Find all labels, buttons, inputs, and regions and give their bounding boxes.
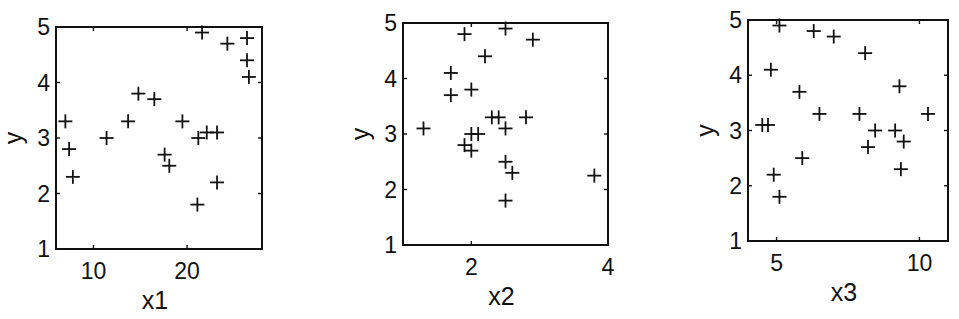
x-axis-label: x3 — [831, 278, 857, 306]
x-tick-labels: 24 — [465, 254, 615, 280]
plus-marker — [417, 121, 431, 135]
plus-marker — [240, 31, 254, 45]
plus-marker — [519, 110, 533, 124]
axes-frame — [748, 20, 948, 241]
x-tick-label: 2 — [465, 254, 478, 280]
x-tick-label: 4 — [602, 254, 615, 280]
plus-marker — [471, 127, 485, 141]
scatter-figure: 12345 1020 x1 y 12345 24 x2 y 12345 510 … — [0, 0, 959, 319]
plus-marker — [240, 53, 254, 67]
plus-marker — [587, 169, 601, 183]
y-tick-label: 4 — [729, 62, 742, 88]
y-tick-labels: 12345 — [729, 7, 742, 254]
scatter-points — [58, 26, 256, 212]
plus-marker — [505, 166, 519, 180]
plus-marker — [792, 85, 806, 99]
y-tick-labels: 12345 — [37, 14, 50, 262]
plus-marker — [499, 155, 513, 169]
panel-x2: 12345 24 x2 y — [346, 10, 615, 310]
plus-marker — [764, 63, 778, 77]
y-tick-label: 5 — [729, 7, 742, 33]
plus-marker — [242, 70, 256, 84]
x-tick-label: 5 — [770, 250, 783, 276]
plus-marker — [210, 175, 224, 189]
plus-marker — [499, 121, 513, 135]
y-tick-label: 1 — [37, 236, 50, 262]
axes-frame — [56, 27, 262, 249]
x-tick-label: 20 — [174, 258, 200, 284]
plus-marker — [444, 88, 458, 102]
plus-marker — [894, 162, 908, 176]
plus-marker — [131, 87, 145, 101]
x-tick-labels: 1020 — [81, 258, 200, 284]
axis-ticks — [748, 20, 948, 241]
panel-x1: 12345 1020 x1 y — [0, 14, 262, 314]
plus-marker — [492, 110, 506, 124]
plus-marker — [892, 79, 906, 93]
plus-marker — [62, 142, 76, 156]
plus-marker — [767, 168, 781, 182]
plus-marker — [147, 92, 161, 106]
y-tick-label: 3 — [37, 125, 50, 151]
x-tick-label: 10 — [907, 250, 933, 276]
y-tick-labels: 12345 — [384, 10, 397, 258]
plus-marker — [210, 125, 224, 139]
y-tick-label: 4 — [384, 66, 397, 92]
plus-marker — [827, 30, 841, 44]
plus-marker — [852, 107, 866, 121]
y-tick-label: 2 — [729, 173, 742, 199]
plus-marker — [812, 107, 826, 121]
y-tick-label: 2 — [37, 181, 50, 207]
plus-marker — [478, 49, 492, 63]
plus-marker — [66, 170, 80, 184]
scatter-points — [755, 19, 935, 204]
plus-marker — [464, 83, 478, 97]
plus-marker — [175, 114, 189, 128]
plus-marker — [921, 107, 935, 121]
plus-marker — [444, 66, 458, 80]
plus-marker — [888, 124, 902, 138]
plus-marker — [772, 190, 786, 204]
y-tick-label: 3 — [729, 118, 742, 144]
plus-marker — [458, 27, 472, 41]
y-axis-label: y — [0, 131, 27, 144]
plus-marker — [526, 33, 540, 47]
plus-marker — [499, 194, 513, 208]
y-tick-label: 1 — [729, 228, 742, 254]
plus-marker — [795, 151, 809, 165]
y-tick-label: 4 — [37, 70, 50, 96]
plus-marker — [868, 124, 882, 138]
plus-marker — [58, 114, 72, 128]
panel-x3: 12345 510 x3 y — [691, 7, 948, 306]
y-tick-label: 2 — [384, 177, 397, 203]
plus-marker — [861, 140, 875, 154]
plus-marker — [190, 198, 204, 212]
y-tick-label: 5 — [384, 10, 397, 36]
y-tick-label: 1 — [384, 232, 397, 258]
y-axis-label: y — [691, 124, 719, 137]
x-axis-label: x1 — [142, 286, 168, 314]
plus-marker — [897, 135, 911, 149]
x-axis-label: x2 — [488, 282, 514, 310]
plus-marker — [807, 24, 821, 38]
axis-ticks — [56, 27, 262, 249]
scatter-points — [417, 22, 602, 208]
plus-marker — [121, 114, 135, 128]
y-axis-label: y — [346, 127, 374, 140]
plus-marker — [858, 46, 872, 60]
y-tick-label: 3 — [384, 121, 397, 147]
plus-marker — [220, 37, 234, 51]
plus-marker — [100, 131, 114, 145]
x-tick-labels: 510 — [770, 250, 932, 276]
x-tick-label: 10 — [81, 258, 107, 284]
y-tick-label: 5 — [37, 14, 50, 40]
